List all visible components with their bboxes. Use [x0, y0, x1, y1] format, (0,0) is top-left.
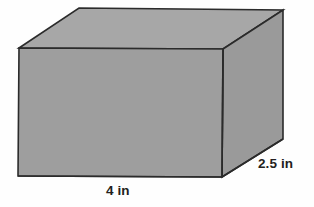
depth-dimension-label: 2.5 in: [258, 157, 293, 171]
prism-front-right-edge: [222, 49, 223, 177]
rectangular-prism-figure: [0, 0, 314, 207]
prism-front-face: [18, 48, 223, 177]
figure-stage: 4 in 2.5 in: [0, 0, 314, 207]
width-dimension-label: 4 in: [106, 184, 130, 198]
prism-width-edge: [18, 176, 222, 177]
